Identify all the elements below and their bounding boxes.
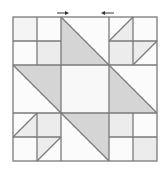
arrow-right-icon xyxy=(57,11,69,15)
quilt-block-svg xyxy=(0,0,164,176)
arrow-left-icon xyxy=(101,11,114,15)
unit-center xyxy=(61,65,109,113)
quilt-block-diagram xyxy=(0,0,164,176)
